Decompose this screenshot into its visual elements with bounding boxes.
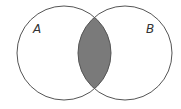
set-b-label: B bbox=[146, 22, 154, 36]
set-a-label: A bbox=[32, 22, 41, 36]
venn-diagram: A B bbox=[0, 0, 181, 109]
